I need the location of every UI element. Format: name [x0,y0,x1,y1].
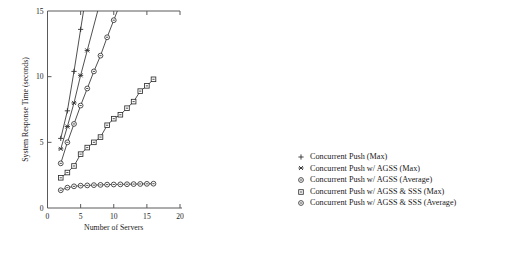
series-line [61,0,107,138]
series-2 [58,0,140,166]
legend-glyph [298,201,303,206]
x-tick-label: 5 [79,212,83,221]
plus-marker [294,152,308,162]
legend-glyph [298,154,303,159]
chart-figure: 05101520051015Number of ServersSystem Re… [0,0,516,253]
legend-marker [292,197,309,209]
plot-area [58,0,156,193]
x-tick-label: 20 [176,212,184,221]
legend-item-label: Concurrent Push w/ AGSS (Max) [309,163,420,175]
y-tick-label: 10 [36,72,44,81]
star-marker [294,163,308,173]
x-tick-label: 15 [143,212,151,221]
legend-item[interactable]: Concurrent Push w/ AGSS (Average) [292,174,510,186]
response-time-line-chart: 05101520051015Number of ServersSystem Re… [0,0,516,253]
legend-item[interactable]: Concurrent Push (Max) [292,151,510,163]
x-tick-label: 10 [110,212,118,221]
x-tick-label: 0 [46,212,50,221]
legend-item[interactable]: Concurrent Push w/ AGSS & SSS (Average) [292,197,510,209]
legend-marker [292,174,309,186]
x-axis-label: Number of Servers [84,223,143,232]
legend-marker [292,151,309,163]
legend-item-label: Concurrent Push (Max) [309,151,387,163]
top-axis-ticks [81,11,147,15]
y-tick-label: 5 [40,138,44,147]
chart-legend: Concurrent Push (Max)Concurrent Push w/ … [292,151,510,209]
series-4 [58,181,156,192]
y-tick-label: 15 [36,7,44,16]
series-0 [58,0,107,141]
y-tick-label: 0 [40,204,44,213]
legend-glyph [298,178,303,183]
square-dot-marker [294,187,308,197]
legend-glyph [298,189,303,194]
legend-item-label: Concurrent Push w/ AGSS (Average) [309,174,432,186]
y-axis-ticks: 051015 [36,7,52,213]
circle-dot-marker [294,175,308,185]
legend-marker [292,186,309,198]
y-axis-label: System Response Time (seconds) [21,57,30,162]
legend-item-label: Concurrent Push w/ AGSS & SSS (Average) [309,197,456,209]
series-3 [58,77,155,180]
legend-glyph [298,166,303,170]
series-line [61,79,154,178]
legend-item[interactable]: Concurrent Push w/ AGSS & SSS (Max) [292,186,510,198]
legend-item-label: Concurrent Push w/ AGSS & SSS (Max) [309,186,444,198]
legend-item[interactable]: Concurrent Push w/ AGSS (Max) [292,163,510,175]
circle-dot-marker [294,198,308,208]
x-axis-ticks: 05101520 [46,204,184,221]
legend-marker [292,163,309,175]
